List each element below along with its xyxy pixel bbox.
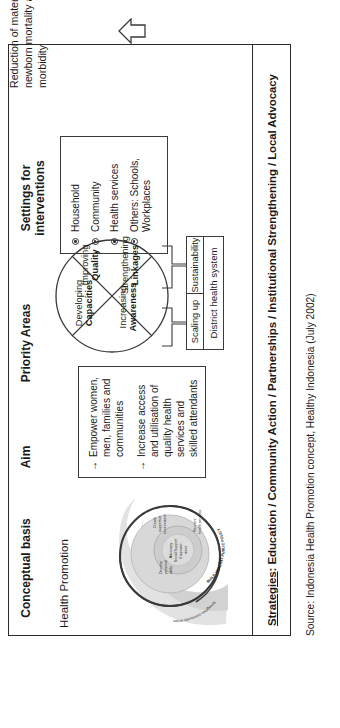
settings-list-item: Health services	[109, 143, 122, 245]
column-header-aim: Aim	[20, 422, 34, 492]
settings-list-item: Others: Schools, Workplaces	[129, 143, 154, 245]
bullet-icon	[131, 238, 138, 245]
source-caption: Source: Indonesia Health Promotion conce…	[305, 293, 316, 636]
strategies-label: Strategies	[266, 571, 278, 626]
settings-item-label: Household	[70, 184, 83, 232]
aim-item-label: Empower women, men, families and communi…	[88, 374, 126, 457]
settings-item-label: Health services	[109, 164, 122, 232]
strategies-colon: :	[266, 568, 278, 572]
column-header-settings-for-interventions: Settings for interventions	[20, 138, 48, 258]
settings-for-interventions-box: Household Community Health services Othe…	[60, 136, 168, 254]
bullet-icon	[111, 238, 118, 245]
settings-list-item: Community	[90, 143, 103, 245]
settings-item-label: Others: Schools, Workplaces	[129, 143, 154, 232]
quadrant-line-2: Awareness	[128, 283, 138, 332]
priority-quadrant-increasing-awareness: Increasing Awareness	[118, 278, 139, 336]
rotated-diagram-wrapper: Conceptual basis Aim Priority Areas Sett…	[0, 0, 340, 728]
scaling-sustainability-row: Scaling up Sustainability	[186, 236, 204, 350]
health-promotion-label: Health Promotion	[58, 539, 70, 628]
aim-box: → Empower women, men, families and commu…	[78, 366, 206, 478]
column-header-priority-areas: Priority Areas	[20, 288, 34, 398]
strategies-list: Education / Community Action / Partnersh…	[266, 74, 278, 568]
settings-item-label: Community	[90, 181, 103, 232]
bullet-icon	[92, 238, 99, 245]
scaling-up-cell: Scaling up	[186, 293, 204, 350]
health-promotion-spiral-diagram: Strengthen community action Develop pers…	[78, 482, 228, 632]
district-health-system-box: District health system	[204, 236, 224, 350]
priority-areas-circle: Developing Capacities Improving Quality …	[52, 236, 172, 356]
aim-item: → Increase access and utilisation of qua…	[136, 374, 200, 471]
sustainability-cell: Sustainability	[186, 236, 204, 293]
bullet-icon	[72, 238, 79, 245]
strategies-text: Strategies: Education / Community Action…	[266, 74, 278, 626]
diagram-canvas: Conceptual basis Aim Priority Areas Sett…	[0, 0, 340, 728]
outcome-arrow-icon	[118, 18, 146, 44]
aim-item-label: Increase access and utilisation of quali…	[136, 374, 200, 457]
quadrant-line-1: Increasing	[118, 286, 128, 329]
aim-item: → Empower women, men, families and commu…	[88, 374, 126, 471]
strategies-band: Strategies: Education / Community Action…	[252, 44, 291, 636]
settings-list-item: Household	[70, 143, 83, 245]
outcome-text: Reduction of maternal and newborn mortal…	[8, 0, 49, 88]
arrow-icon: →	[136, 461, 200, 471]
arrow-icon: →	[88, 461, 126, 471]
column-header-conceptual-basis: Conceptual basis	[20, 508, 34, 628]
